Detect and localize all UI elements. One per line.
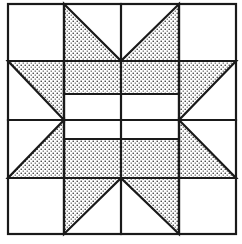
quilt-block-diagram xyxy=(0,0,242,244)
